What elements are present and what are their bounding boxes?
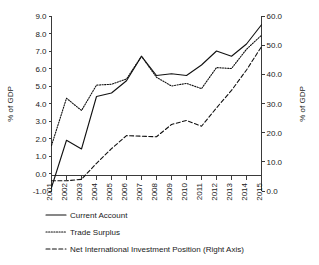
left-tick-label: 9.0 bbox=[35, 12, 47, 21]
x-tick-label: 2007 bbox=[135, 182, 144, 200]
right-tick-label: 30.0 bbox=[267, 100, 283, 109]
right-tick-label: 50.0 bbox=[267, 41, 283, 50]
chart-series bbox=[52, 25, 262, 188]
x-tick-label: 2010 bbox=[180, 182, 189, 200]
x-tick-label: 2003 bbox=[75, 182, 84, 200]
left-tick-label: 3.0 bbox=[35, 117, 47, 126]
line-chart: 9.08.07.06.05.04.03.02.01.00.0-1.0 60.05… bbox=[0, 0, 319, 265]
left-tick-label: 4.0 bbox=[35, 100, 47, 109]
right-tick-label: 40.0 bbox=[267, 70, 283, 79]
x-tick-label: 2006 bbox=[120, 182, 129, 200]
left-axis-title: % of GDP bbox=[6, 86, 15, 122]
chart-figure: 9.08.07.06.05.04.03.02.01.00.0-1.0 60.05… bbox=[0, 0, 319, 265]
right-tick-label: 20.0 bbox=[267, 129, 283, 138]
x-tick-label: 2002 bbox=[60, 182, 69, 200]
x-tick-label: 2011 bbox=[195, 182, 204, 200]
series-line-solid bbox=[52, 25, 262, 188]
chart-axes bbox=[52, 16, 262, 191]
left-tick-label: 1.0 bbox=[35, 152, 47, 161]
legend-label: Current Account bbox=[70, 211, 128, 220]
left-tick-label: 2.0 bbox=[35, 135, 47, 144]
x-tick-label: 2012 bbox=[210, 182, 219, 200]
chart-legend: Current AccountTrade SurplusNet Internat… bbox=[46, 211, 244, 254]
x-tick-label: 2013 bbox=[225, 182, 234, 200]
right-axis-ticks: 60.050.040.030.020.010.00.0 bbox=[262, 12, 283, 196]
series-line-dotted bbox=[52, 35, 262, 145]
right-axis-title: % of GDP bbox=[298, 86, 307, 122]
x-tick-label: 2004 bbox=[90, 182, 99, 200]
x-axis-tick-labels: 2001200220032004200520062007200820092010… bbox=[45, 182, 264, 200]
x-tick-label: 2015 bbox=[255, 182, 264, 200]
left-tick-label: 0.0 bbox=[35, 170, 47, 179]
right-tick-label: 0.0 bbox=[267, 187, 279, 196]
x-tick-label: 2005 bbox=[105, 182, 114, 200]
x-tick-label: 2014 bbox=[240, 182, 249, 200]
left-axis-ticks: 9.08.07.06.05.04.03.02.01.00.0-1.0 bbox=[33, 12, 52, 196]
legend-label: Trade Surplus bbox=[70, 228, 120, 237]
series-line-dashed bbox=[52, 47, 262, 181]
left-tick-label: 6.0 bbox=[35, 65, 47, 74]
left-tick-label: 7.0 bbox=[35, 47, 47, 56]
left-tick-label: 8.0 bbox=[35, 30, 47, 39]
x-tick-label: 2008 bbox=[150, 182, 159, 200]
right-tick-label: 10.0 bbox=[267, 158, 283, 167]
right-tick-label: 60.0 bbox=[267, 12, 283, 21]
x-tick-label: 2009 bbox=[165, 182, 174, 200]
legend-label: Net International Investment Position (R… bbox=[70, 245, 244, 254]
left-tick-label: 5.0 bbox=[35, 82, 47, 91]
